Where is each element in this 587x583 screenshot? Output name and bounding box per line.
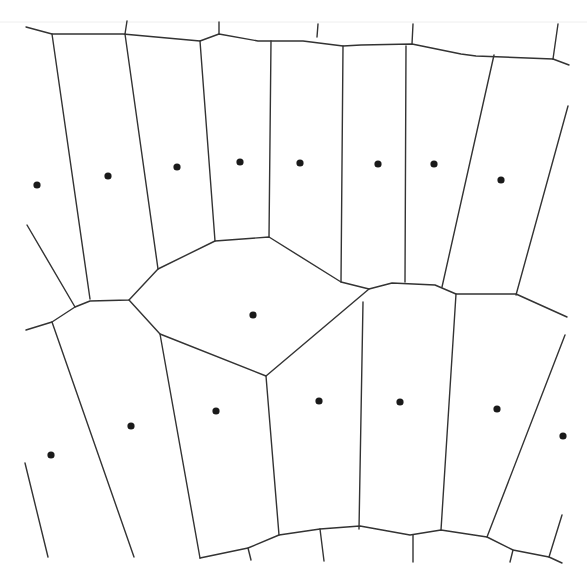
voronoi-edge <box>553 59 569 65</box>
voronoi-edge <box>26 27 553 59</box>
voronoi-edge <box>26 237 567 330</box>
voronoi-site-point <box>493 405 500 412</box>
voronoi-site-point <box>47 451 54 458</box>
voronoi-edge <box>412 24 413 44</box>
voronoi-edge <box>27 225 75 307</box>
voronoi-site-point <box>497 176 504 183</box>
voronoi-site-point <box>104 172 111 179</box>
voronoi-site-point <box>212 407 219 414</box>
voronoi-edge <box>442 55 494 287</box>
voronoi-edge <box>487 335 565 537</box>
voronoi-edge <box>269 41 271 237</box>
voronoi-edge <box>52 322 134 557</box>
voronoi-edge <box>125 34 158 269</box>
voronoi-edge <box>405 46 406 282</box>
voronoi-edge <box>160 334 200 558</box>
voronoi-edge <box>516 106 568 295</box>
voronoi-site-point <box>559 432 566 439</box>
voronoi-edges <box>25 21 569 563</box>
voronoi-edge <box>25 463 48 557</box>
voronoi-site-point <box>127 422 134 429</box>
voronoi-sites <box>33 158 566 458</box>
voronoi-edge <box>320 529 324 561</box>
voronoi-site-point <box>296 159 303 166</box>
voronoi-edge <box>248 548 251 560</box>
voronoi-site-point <box>249 311 256 318</box>
voronoi-edge <box>317 24 318 37</box>
voronoi-edge <box>200 41 215 241</box>
voronoi-edge <box>200 526 562 563</box>
voronoi-edge <box>359 302 363 529</box>
voronoi-edge <box>125 21 127 34</box>
voronoi-site-point <box>430 160 437 167</box>
voronoi-site-point <box>33 181 40 188</box>
voronoi-site-point <box>315 397 322 404</box>
voronoi-site-point <box>173 163 180 170</box>
voronoi-edge <box>341 46 343 282</box>
voronoi-site-point <box>236 158 243 165</box>
voronoi-edge <box>266 376 279 535</box>
voronoi-site-point <box>396 398 403 405</box>
voronoi-site-point <box>374 160 381 167</box>
voronoi-edge <box>510 550 513 562</box>
voronoi-edge <box>549 515 562 557</box>
voronoi-edge <box>52 34 90 299</box>
voronoi-edge <box>441 294 456 530</box>
voronoi-diagram <box>0 0 587 583</box>
voronoi-edge <box>553 24 558 59</box>
